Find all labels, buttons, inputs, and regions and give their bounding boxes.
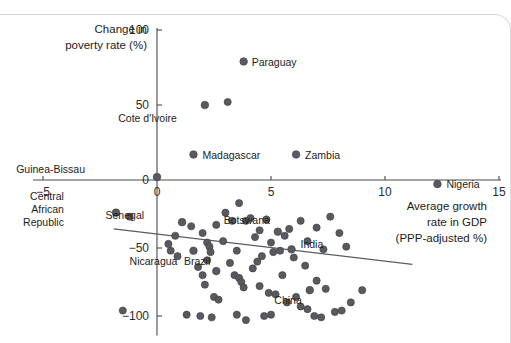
data-point[interactable] (233, 311, 240, 318)
data-point[interactable] (281, 232, 288, 239)
x-tick-label: 10 (378, 185, 392, 199)
data-point[interactable] (240, 284, 247, 291)
data-point[interactable] (261, 312, 268, 319)
y-tick-label: 0 (142, 173, 149, 187)
point-label: Central (30, 190, 64, 202)
data-point[interactable] (213, 221, 220, 228)
data-point[interactable] (290, 254, 297, 261)
data-point[interactable] (251, 234, 258, 241)
data-point[interactable] (226, 259, 233, 266)
axes-group: −5051015−100−50050100 (33, 23, 506, 336)
data-point-labeled[interactable] (434, 180, 442, 188)
data-point-labeled[interactable] (153, 173, 161, 181)
data-point-labeled[interactable] (274, 228, 282, 236)
data-point[interactable] (254, 258, 261, 265)
point-labels-group: ParaguayCote d'IvoireMadagascarZambiaGui… (16, 56, 480, 307)
point-label: India (301, 238, 324, 250)
data-point[interactable] (235, 200, 242, 207)
data-point-labeled[interactable] (288, 246, 296, 254)
y-tick-label: 50 (136, 98, 150, 112)
data-point[interactable] (119, 307, 126, 314)
point-label: Nicaragua (130, 255, 178, 267)
data-point[interactable] (338, 307, 345, 314)
point-label: Senegal (106, 209, 145, 221)
data-point[interactable] (249, 265, 256, 272)
point-label: Paraguay (252, 56, 298, 68)
point-label: Cote d'Ivoire (118, 112, 177, 124)
data-point[interactable] (302, 262, 309, 269)
data-point[interactable] (165, 240, 172, 247)
data-point[interactable] (265, 289, 272, 296)
data-point[interactable] (297, 217, 304, 224)
data-point-labeled[interactable] (240, 58, 248, 66)
data-point-labeled[interactable] (306, 286, 314, 294)
point-label: Madagascar (202, 149, 260, 161)
data-point[interactable] (347, 299, 354, 306)
scatter-plot: −5051015−100−50050100 ParaguayCote d'Ivo… (0, 0, 511, 343)
data-point[interactable] (197, 312, 204, 319)
data-point-labeled[interactable] (190, 151, 198, 159)
y-axis-title: poverty rate (%) (65, 39, 147, 51)
x-tick-label: 15 (492, 185, 506, 199)
point-label: China (274, 294, 302, 306)
data-point[interactable] (359, 287, 366, 294)
x-axis-title: (PPP-adjusted %) (396, 232, 488, 244)
point-label: Botswana (224, 214, 270, 226)
data-point[interactable] (313, 277, 320, 284)
point-label: Brazil (184, 255, 210, 267)
data-point[interactable] (331, 308, 338, 315)
data-point[interactable] (277, 247, 284, 254)
data-point[interactable] (313, 224, 320, 231)
data-point-labeled[interactable] (178, 218, 186, 226)
data-point[interactable] (242, 316, 249, 323)
data-point[interactable] (336, 229, 343, 236)
data-point-labeled[interactable] (292, 151, 300, 159)
data-point[interactable] (208, 314, 215, 321)
data-point[interactable] (199, 272, 206, 279)
data-point[interactable] (199, 229, 206, 236)
data-point[interactable] (256, 282, 263, 289)
data-point[interactable] (267, 311, 274, 318)
data-point-labeled[interactable] (190, 247, 198, 255)
point-label: Nigeria (446, 178, 479, 190)
data-point[interactable] (188, 223, 195, 230)
point-label: Zambia (305, 149, 340, 161)
data-point[interactable] (304, 306, 311, 313)
data-point[interactable] (172, 232, 179, 239)
data-point[interactable] (183, 311, 190, 318)
point-label: Republic (23, 216, 64, 228)
data-point[interactable] (256, 227, 263, 234)
y-axis-title: Change in (95, 23, 147, 35)
data-point[interactable] (279, 272, 286, 279)
data-point-labeled[interactable] (201, 101, 209, 109)
y-tick-label: −50 (129, 241, 150, 255)
data-points-group (112, 58, 441, 324)
data-point[interactable] (201, 281, 208, 288)
data-point[interactable] (327, 213, 334, 220)
data-point[interactable] (267, 239, 274, 246)
data-point[interactable] (167, 247, 174, 254)
data-point[interactable] (220, 238, 227, 245)
data-point[interactable] (322, 285, 329, 292)
x-tick-label: 0 (154, 185, 161, 199)
data-point[interactable] (311, 312, 318, 319)
x-tick-label: 5 (268, 185, 275, 199)
data-point[interactable] (318, 314, 325, 321)
x-axis-title: Average growth (407, 200, 487, 212)
data-point-labeled[interactable] (212, 267, 220, 275)
point-label: African (31, 203, 64, 215)
data-point[interactable] (286, 225, 293, 232)
data-point[interactable] (224, 98, 231, 105)
data-point[interactable] (233, 247, 240, 254)
point-label: Guinea-Bissau (16, 163, 85, 175)
data-point[interactable] (343, 243, 350, 250)
x-axis-title: rate in GDP (427, 216, 487, 228)
data-point[interactable] (270, 248, 277, 255)
data-point[interactable] (215, 296, 222, 303)
